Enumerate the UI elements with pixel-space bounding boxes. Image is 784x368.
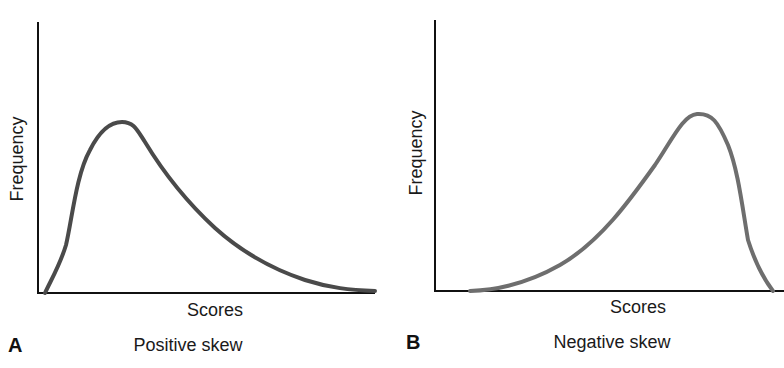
x-axis-label: Scores [610, 297, 666, 317]
x-axis-label: Scores [187, 300, 243, 320]
panel-caption-b: Negative skew [553, 332, 671, 352]
panel-letter-a: A [8, 334, 22, 356]
panel-letter-b: B [406, 331, 420, 353]
negative-skew-curve [470, 114, 773, 291]
skew-figure: Frequency Scores A Positive skew Frequen… [0, 0, 784, 368]
panel-b: Frequency Scores B Negative skew [406, 20, 784, 353]
positive-skew-curve [45, 122, 375, 293]
y-axis-label: Frequency [7, 116, 27, 201]
y-axis-label: Frequency [406, 110, 426, 195]
panel-a: Frequency Scores A Positive skew [7, 22, 375, 356]
panel-caption-a: Positive skew [133, 335, 243, 355]
